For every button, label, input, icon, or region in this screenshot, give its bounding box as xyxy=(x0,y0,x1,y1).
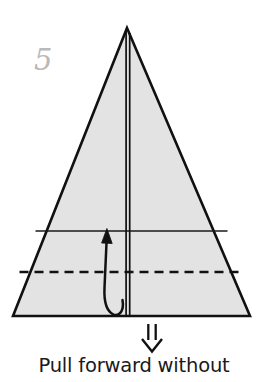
push-down-arrow-head xyxy=(142,339,162,352)
push-down-double-arrow xyxy=(142,324,162,352)
step-number: 5 xyxy=(34,38,74,82)
origami-step-figure: 5 Pull forward without xyxy=(0,0,268,382)
step-caption: Pull forward without xyxy=(0,353,268,379)
